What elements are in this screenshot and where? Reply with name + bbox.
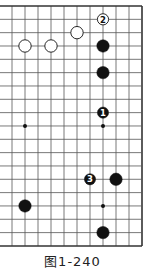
black-stone-numbered: 3 [84,174,95,185]
go-board-diagram: 213 [0,0,145,252]
black-stone [97,226,109,238]
black-stone [19,200,31,212]
white-stone-icon [45,40,57,52]
black-stone [97,40,109,52]
move-number-label: 1 [100,108,106,118]
white-stone [71,26,83,38]
white-stone-icon [71,26,83,38]
black-stone-icon [19,200,31,212]
figure-caption: 图1-240 [0,255,145,269]
black-stone-icon [97,226,109,238]
star-point-icon [101,124,105,128]
move-number-label: 2 [100,15,106,25]
move-number-label: 3 [87,174,93,184]
black-stone [97,66,109,78]
star-point-icon [101,204,105,208]
white-stone-numbered: 2 [97,14,108,25]
black-stone-icon [110,173,122,185]
white-stone [45,40,57,52]
white-stone [19,40,31,52]
white-stone-icon [19,40,31,52]
black-stone-numbered: 1 [97,107,108,118]
star-point-icon [23,124,27,128]
black-stone-icon [97,40,109,52]
black-stone-icon [97,66,109,78]
black-stone [110,173,122,185]
